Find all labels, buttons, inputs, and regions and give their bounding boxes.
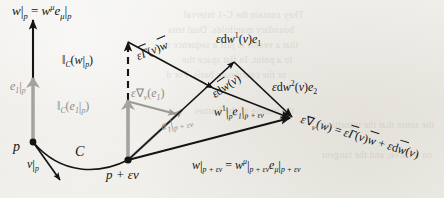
label-wpev-sub-pev: p + εv xyxy=(203,165,223,174)
label-curve-C: C xyxy=(75,145,84,159)
label-transport-e1-close: ) xyxy=(85,99,89,113)
label-v-at-p-sub-p: p xyxy=(35,164,39,173)
label-transport-e1: ‖C(e1|p) xyxy=(57,100,89,115)
label-wpev-w2: w xyxy=(235,158,243,172)
vector-eps-nabla-v-e1 xyxy=(130,102,176,114)
label-w1-pev-bar: | xyxy=(226,104,229,119)
label-wpev-equals: = xyxy=(222,158,235,172)
figure-canvas: They contain the C-1 interval boundary m… xyxy=(0,0,444,198)
point-p-plus-eps-v-dot xyxy=(124,156,131,163)
label-eps-nabla-v-e1: ε∇v(e1) xyxy=(131,87,164,102)
label-v-at-p: v|p xyxy=(27,158,39,173)
label-eps-dw2-v-e2: εdw2(v)e2 xyxy=(272,80,317,96)
label-w-at-p-equals: = xyxy=(28,3,42,18)
label-wpev-bar3: | xyxy=(278,158,281,173)
label-w1-pev-sub-pev: p + εv xyxy=(244,111,264,121)
label-e1-at-p-bar: | xyxy=(19,79,22,94)
label-w-at-p: w|p = wμeμ|p xyxy=(12,3,72,20)
label-w1-at-p-plus-eps-v: w1|pe1|p + εv xyxy=(214,103,264,121)
label-wpev-w: w xyxy=(192,158,200,172)
label-wpev-bar2: | xyxy=(247,158,250,173)
label-dw1-sub-1: 1 xyxy=(257,39,261,48)
label-w-at-p-bar2: | xyxy=(65,3,68,19)
label-point-p-plus-eps-v: p + εv xyxy=(106,168,139,181)
label-wpev-sub-pev3: p + εv xyxy=(281,165,301,174)
label-dw2-sub-2: 2 xyxy=(313,87,317,96)
label-wpev-sub-pev2: p + εv xyxy=(250,165,270,174)
label-transport-w: ‖C(w|p) xyxy=(62,54,93,69)
label-dw2-w: w xyxy=(283,80,291,94)
label-e1-at-p-sub-p: p xyxy=(22,86,26,95)
point-p-dot xyxy=(30,139,37,146)
label-w-at-p-plus-eps-v: w|p + εv = wμ|p + εveμ|p + εv xyxy=(192,158,301,174)
label-point-p: p xyxy=(13,140,20,154)
label-w-at-p-w2: w xyxy=(42,3,51,18)
label-e1-at-p: e1|p xyxy=(10,80,26,95)
label-w-at-p-sub-mu: μ xyxy=(60,11,64,21)
label-wpev-bar: | xyxy=(200,158,203,173)
label-eps-dw1-v-e1: εdw1(v)e1 xyxy=(216,32,261,48)
label-eps-nabla-symbol: ∇ xyxy=(136,86,144,100)
label-dw1-w: w xyxy=(227,32,235,46)
label-transport-w-bar: | xyxy=(83,53,86,68)
label-transport-w-w: w xyxy=(75,53,83,67)
label-transport-w-close: ) xyxy=(89,53,93,67)
label-w-at-p-sub-p2: p xyxy=(67,11,71,21)
label-eps-nabla-close: ) xyxy=(160,86,164,100)
label-v-at-p-bar: | xyxy=(32,157,35,172)
label-w-at-p-w: w xyxy=(12,3,21,18)
